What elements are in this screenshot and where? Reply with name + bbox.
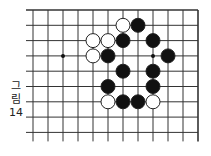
black-stone [116,95,130,109]
black-stone [161,49,175,63]
white-stone [146,95,160,109]
caption-char-1: 그 [6,80,26,93]
black-stone [116,34,130,48]
white-stone [101,34,115,48]
figure-caption: 그 림 14 [6,80,26,119]
black-stone [146,34,160,48]
white-stone [116,18,130,32]
black-stone [131,95,145,109]
black-stone [116,64,130,78]
white-stone [86,49,100,63]
white-stone [86,34,100,48]
black-stone [146,64,160,78]
white-stone [101,95,115,109]
black-stone [101,80,115,94]
star-point [61,54,65,58]
black-stone [101,49,115,63]
black-stone [146,80,160,94]
caption-number: 14 [6,106,26,119]
star-point [151,54,155,58]
go-board [0,0,211,156]
caption-char-2: 림 [6,93,26,106]
black-stone [131,18,145,32]
